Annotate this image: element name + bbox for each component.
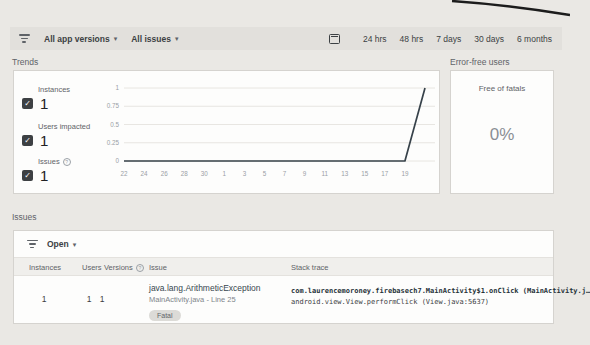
svg-text:3: 3	[243, 170, 247, 177]
chevron-down-icon: ▾	[73, 241, 77, 248]
free-of-fatals-label: Free of fatals	[451, 84, 553, 93]
svg-text:28: 28	[181, 170, 189, 177]
col-versions: Versions?	[104, 263, 144, 272]
issues-filter-dropdown[interactable]: All issues ▾	[131, 34, 178, 44]
issue-status-dropdown[interactable]: Open ▾	[47, 239, 76, 249]
issue-location: MainActivity.java - Line 25	[149, 295, 261, 304]
issue-title-link[interactable]: java.lang.ArithmeticException	[149, 283, 261, 293]
calendar-icon[interactable]	[329, 34, 340, 44]
svg-text:19: 19	[401, 170, 409, 177]
check-icon: ✓	[24, 172, 31, 180]
chevron-down-icon: ▾	[175, 35, 179, 42]
issue-status-label: Open	[47, 239, 69, 249]
svg-text:30: 30	[201, 170, 209, 177]
issue-table-row[interactable]: 1 1 1 java.lang.ArithmeticException Main…	[14, 276, 553, 323]
users-impacted-checkbox[interactable]: ✓	[22, 135, 33, 146]
svg-text:13: 13	[341, 170, 349, 177]
range-24hrs[interactable]: 24 hrs	[363, 34, 387, 44]
chevron-down-icon: ▾	[114, 35, 118, 42]
trends-section-title: Trends	[12, 57, 38, 67]
svg-text:5: 5	[263, 170, 267, 177]
help-icon[interactable]: ?	[136, 264, 144, 272]
issue-cell: java.lang.ArithmeticException MainActivi…	[149, 283, 261, 322]
filter-toolbar: All app versions ▾ All issues ▾ 24 hrs 4…	[10, 27, 562, 50]
svg-text:26: 26	[161, 170, 169, 177]
svg-text:9: 9	[303, 170, 307, 177]
issues-checkbox[interactable]: ✓	[22, 170, 33, 181]
check-icon: ✓	[24, 100, 31, 108]
issues-table-header: Instances Users Versions? Issue Stack tr…	[14, 257, 553, 276]
svg-text:24: 24	[141, 170, 149, 177]
range-7days[interactable]: 7 days	[436, 34, 461, 44]
metric-issues-label: Issues?	[38, 157, 71, 166]
app-versions-label: All app versions	[44, 34, 110, 44]
row-versions-value: 1	[92, 294, 112, 304]
col-users: Users	[82, 263, 102, 272]
svg-text:22: 22	[120, 170, 128, 177]
metric-issues-value: 1	[40, 167, 48, 184]
svg-text:0.25: 0.25	[107, 139, 120, 146]
stack-trace-line-1: com.laurencemoroney.firebasech7.MainActi…	[291, 287, 590, 295]
svg-text:0: 0	[115, 157, 119, 164]
trends-card: Instances ✓ 1 Users impacted ✓ 1 Issues?…	[13, 70, 440, 194]
row-instances-value: 1	[34, 294, 54, 304]
range-30days[interactable]: 30 days	[474, 34, 504, 44]
issues-filter-row: Open ▾	[14, 231, 553, 257]
filter-icon[interactable]	[26, 240, 38, 248]
check-icon: ✓	[24, 137, 31, 145]
error-free-section-title: Error-free users	[450, 57, 510, 67]
col-issue: Issue	[149, 263, 167, 272]
svg-text:0.5: 0.5	[110, 121, 119, 128]
metric-instances-label: Instances	[38, 85, 70, 94]
filter-icon[interactable]	[18, 34, 30, 42]
help-icon[interactable]: ?	[63, 158, 71, 166]
severity-badge: Fatal	[149, 310, 181, 321]
svg-text:15: 15	[361, 170, 369, 177]
trends-chart: 10.750.50.2502224262830135791113151719	[94, 81, 439, 185]
issues-section-title: Issues	[12, 212, 37, 222]
issues-filter-label: All issues	[131, 34, 171, 44]
col-instances: Instances	[29, 263, 61, 272]
issues-card: Open ▾ Instances Users Versions? Issue S…	[13, 230, 554, 324]
metric-users-label: Users impacted	[38, 122, 90, 131]
svg-text:0.75: 0.75	[107, 102, 120, 109]
instances-checkbox[interactable]: ✓	[22, 98, 33, 109]
range-48hrs[interactable]: 48 hrs	[400, 34, 424, 44]
svg-text:7: 7	[283, 170, 287, 177]
svg-text:1: 1	[115, 84, 119, 91]
metric-instances-value: 1	[40, 95, 48, 112]
scan-artifact-line	[0, 0, 570, 24]
svg-text:1: 1	[223, 170, 227, 177]
col-stack-trace: Stack trace	[291, 263, 329, 272]
metric-users-value: 1	[40, 132, 48, 149]
app-versions-dropdown[interactable]: All app versions ▾	[44, 34, 117, 44]
svg-text:17: 17	[381, 170, 389, 177]
error-free-percentage: 0%	[451, 125, 553, 145]
svg-text:11: 11	[321, 170, 328, 177]
stack-trace-line-2: android.view.View.performClick (View.jav…	[291, 298, 590, 306]
error-free-card: Free of fatals 0%	[450, 70, 554, 194]
stack-trace-cell: com.laurencemoroney.firebasech7.MainActi…	[291, 287, 590, 306]
range-6months[interactable]: 6 months	[517, 34, 552, 44]
